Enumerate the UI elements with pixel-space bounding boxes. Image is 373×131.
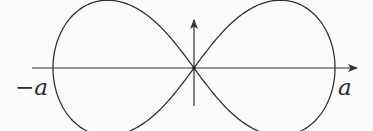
lemniscate-diagram: −a a (0, 0, 373, 131)
right-intercept-label: a (338, 76, 352, 99)
left-intercept-label: −a (15, 76, 48, 99)
origin-point (192, 66, 195, 69)
